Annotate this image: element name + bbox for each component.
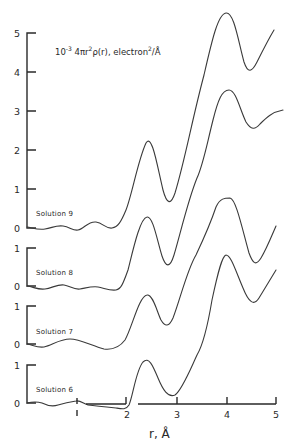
solution-8-label: Solution 8 [36,269,73,277]
svg-text:2: 2 [14,145,20,156]
solution-7-label: Solution 7 [36,328,73,336]
svg-text:1: 1 [14,243,20,254]
rdf-chart: 10-3 4πr2ρ(r), electron2/Å 5 4 3 2 1 0 S… [0,0,296,443]
svg-text:3: 3 [14,106,20,117]
svg-text:0: 0 [14,339,20,350]
svg-text:1: 1 [14,360,20,371]
svg-text:0: 0 [14,281,20,292]
chart-title: 10-3 4πr2ρ(r), electron2/Å [55,45,161,57]
svg-text:1: 1 [14,184,20,195]
solution-7-y-axis: 1 0 [14,301,36,350]
solution-8-y-axis: 1 0 [14,243,36,292]
svg-text:0: 0 [14,398,20,409]
svg-text:0: 0 [14,223,20,234]
x-axis: 1 2 3 4 5 [77,397,279,420]
solution-9-y-axis: 5 4 3 2 1 0 [14,28,36,234]
svg-text:5: 5 [14,28,20,39]
svg-text:2: 2 [124,409,130,420]
svg-text:4: 4 [224,409,230,420]
svg-text:5: 5 [273,409,279,420]
svg-text:4: 4 [14,67,20,78]
solution-6-label: Solution 6 [36,386,74,394]
svg-text:3: 3 [174,409,180,420]
x-axis-label: r, Å [149,426,171,441]
svg-text:1: 1 [14,301,20,312]
solution-8-curve [27,90,283,290]
solution-9-label: Solution 9 [36,210,73,218]
